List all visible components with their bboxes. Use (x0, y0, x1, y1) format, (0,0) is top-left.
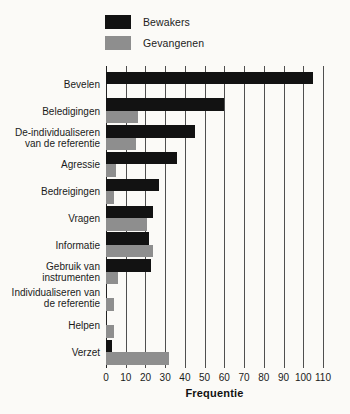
category-label-verzet: Verzet (0, 347, 100, 358)
x-tick-label-20: 20 (140, 372, 151, 383)
bar-informatie-gevangenen (106, 245, 153, 258)
bar-de-individualiseren-van-de-referentie-gevangenen (106, 138, 136, 151)
bar-verzet-bewakers (106, 340, 112, 353)
bar-bedreigingen-bewakers (106, 179, 159, 192)
gridline-40 (185, 66, 186, 368)
bar-beledigingen-bewakers (106, 98, 224, 111)
legend-swatch-bewakers (105, 15, 131, 29)
gridline-100 (303, 66, 304, 368)
category-label-vragen: Vragen (0, 213, 100, 224)
bar-bedreigingen-gevangenen (106, 191, 114, 204)
gridline-110 (323, 66, 324, 368)
bar-helpen-gevangenen (106, 325, 114, 338)
x-tick-label-60: 60 (219, 372, 230, 383)
gridline-30 (165, 66, 166, 368)
gridline-60 (224, 66, 225, 368)
bar-bevelen-bewakers (106, 72, 313, 85)
gridline-50 (205, 66, 206, 368)
x-tick-label-10: 10 (120, 372, 131, 383)
x-tick-label-50: 50 (199, 372, 210, 383)
gridline-70 (244, 66, 245, 368)
bar-verzet-gevangenen (106, 352, 169, 365)
gridline-80 (264, 66, 265, 368)
category-label-informatie: Informatie (0, 239, 100, 250)
bar-chart-figure: BewakersGevangenen Frequentie 0102030405… (0, 0, 350, 414)
category-label-helpen: Helpen (0, 320, 100, 331)
bar-informatie-bewakers (106, 232, 149, 245)
category-label-gebruik-van-instrumenten: Gebruik van instrumenten (0, 261, 100, 283)
chart-legend: BewakersGevangenen (105, 14, 204, 50)
x-axis-title: Frequentie (106, 387, 323, 399)
legend-swatch-gevangenen (105, 36, 131, 50)
x-tick-label-80: 80 (258, 372, 269, 383)
legend-item-gevangenen: Gevangenen (105, 35, 204, 50)
x-tick-label-70: 70 (239, 372, 250, 383)
x-tick-label-90: 90 (278, 372, 289, 383)
x-tick-label-40: 40 (179, 372, 190, 383)
category-label-bevelen: Bevelen (0, 79, 100, 90)
bar-gebruik-van-instrumenten-gevangenen (106, 272, 118, 285)
bar-de-individualiseren-van-de-referentie-bewakers (106, 125, 195, 138)
category-label-beledigingen: Beledigingen (0, 105, 100, 116)
legend-label-gevangenen: Gevangenen (143, 37, 204, 49)
bar-gebruik-van-instrumenten-bewakers (106, 259, 151, 272)
gridline-90 (284, 66, 285, 368)
legend-item-bewakers: Bewakers (105, 14, 204, 29)
bar-vragen-gevangenen (106, 218, 147, 231)
bar-vragen-bewakers (106, 206, 153, 219)
x-tick-label-0: 0 (103, 372, 109, 383)
x-tick-label-100: 100 (295, 372, 312, 383)
bar-agressie-bewakers (106, 152, 177, 165)
category-label-de-individualiseren-van-de-referentie: De-individualiseren van de referentie (0, 127, 100, 149)
legend-label-bewakers: Bewakers (143, 16, 190, 28)
category-label-agressie: Agressie (0, 159, 100, 170)
category-label-bedreigingen: Bedreigingen (0, 186, 100, 197)
x-tick-label-30: 30 (160, 372, 171, 383)
bar-beledigingen-gevangenen (106, 111, 138, 124)
bar-agressie-gevangenen (106, 164, 116, 177)
category-label-individualiseren-van-de-referentie: Individualiseren van de referentie (0, 287, 100, 309)
x-tick-label-110: 110 (315, 372, 331, 383)
bar-individualiseren-van-de-referentie-gevangenen (106, 298, 114, 311)
